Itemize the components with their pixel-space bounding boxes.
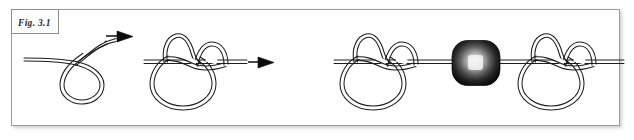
figure-container: Fig. 3.1 xyxy=(0,0,634,140)
arrow-2 xyxy=(248,57,274,68)
crossing-mask-3d xyxy=(574,59,585,62)
figure-label-box: Fig. 3.1 xyxy=(11,9,59,34)
crossing-mask-2b xyxy=(206,59,217,62)
panel-3-knot-bead-knot xyxy=(334,34,624,110)
bead-1 xyxy=(452,41,500,86)
knot-left-3 xyxy=(340,34,418,110)
panel-1-open-loop xyxy=(24,39,116,105)
knot-bight-2 xyxy=(150,56,216,110)
figure-label-text: Fig. 3.1 xyxy=(18,18,51,28)
panel-2-tied-knot xyxy=(144,34,247,110)
knot-diagram-canvas xyxy=(0,0,634,140)
crossing-mask-3b xyxy=(396,59,407,62)
knot-right-3 xyxy=(518,34,596,110)
